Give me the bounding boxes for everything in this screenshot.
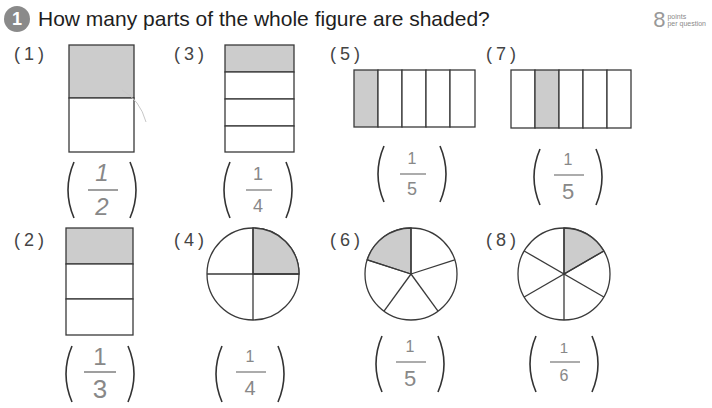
figure-7-rectangle-fifths (511, 70, 631, 128)
figure-8-circle-sixths (518, 228, 610, 320)
answer-7[interactable]: 1 5 (528, 145, 608, 209)
answer-denominator: 5 (528, 179, 608, 205)
answer-8[interactable]: 1 6 (524, 332, 604, 396)
answer-denominator: 5 (372, 178, 452, 200)
answer-6[interactable]: 1 5 (370, 332, 450, 396)
answer-denominator: 4 (218, 194, 298, 218)
answer-denominator: 4 (210, 376, 290, 400)
figure-3-rectangle-quarters (225, 45, 294, 152)
answer-numerator: 1 (210, 346, 290, 368)
answer-5[interactable]: 1 5 (372, 142, 452, 206)
answer-numerator: 1 (218, 162, 298, 186)
answer-numerator: 1 (524, 338, 604, 358)
answer-denominator: 6 (524, 366, 604, 386)
answer-numerator: 1 (528, 149, 608, 171)
figure-2-rectangle-thirds (66, 228, 133, 335)
answer-numerator: 1 (62, 158, 142, 188)
answer-4[interactable]: 1 4 (210, 342, 290, 406)
figure-1-rectangle-halves (69, 45, 134, 152)
answer-3[interactable]: 1 4 (218, 158, 298, 222)
answer-numerator: 1 (60, 344, 140, 370)
figure-6-circle-fifths (365, 228, 457, 320)
figure-4-circle-quarters (207, 228, 299, 320)
answer-numerator: 1 (372, 148, 452, 170)
answer-2[interactable]: 1 3 (60, 342, 140, 406)
answer-numerator: 1 (370, 336, 450, 358)
figure-5-rectangle-fifths (354, 70, 475, 127)
answer-denominator: 3 (60, 374, 140, 404)
answer-denominator: 2 (62, 192, 142, 222)
answer-denominator: 5 (370, 366, 450, 392)
answer-1[interactable]: 1 2 (62, 158, 142, 222)
